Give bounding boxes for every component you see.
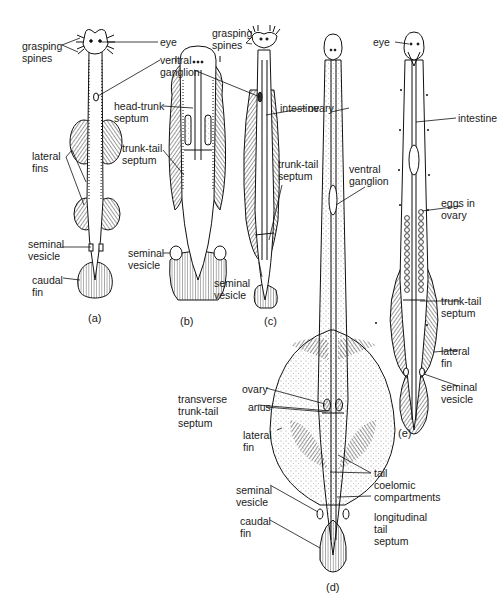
label-d-caudal-fin: caudal fin <box>240 515 271 539</box>
caption-a: (a) <box>88 312 101 324</box>
label-d-transverse-trunk-tail-septum: transverse trunk-tail septum <box>178 393 227 429</box>
label-e-seminal-vesicle: seminal vesicle <box>441 381 477 405</box>
caption-d: (d) <box>326 581 339 593</box>
panel-b-drawing <box>169 46 226 300</box>
label-c-seminal-vesicle: seminal vesicle <box>214 277 250 301</box>
label-e-lateral-fin: lateral fin <box>441 345 470 369</box>
label-d-longitudinal-tail-septum: longitudinal tail septum <box>374 511 427 547</box>
label-d-lateral-fin: lateral fin <box>243 429 272 453</box>
label-a-ventral-ganglion: ventral ganglion <box>160 54 200 78</box>
label-b-trunk-tail-septum: trunk-tail septum <box>122 142 162 166</box>
label-c-grasping-spines: grasping spines <box>212 27 252 51</box>
label-d-ovary: ovary <box>242 383 268 395</box>
label-e-trunk-tail-septum: trunk-tail septum <box>441 295 481 319</box>
label-a-caudal-fin: caudal fin <box>32 274 63 298</box>
label-d-ventral-ganglion: ventral ganglion <box>349 163 389 187</box>
label-d-anus: anus <box>248 401 271 413</box>
panel-c-drawing <box>244 25 280 308</box>
panel-e-drawing <box>375 32 438 434</box>
label-a-lateral-fins: lateral fins <box>32 150 61 174</box>
label-e-eye: eye <box>373 36 390 48</box>
label-a-grasping-spines: grasping spines <box>22 40 62 64</box>
label-d-seminal-vesicle: seminal vesicle <box>236 484 272 508</box>
label-b-seminal-vesicle: seminal vesicle <box>128 247 164 271</box>
label-e-eggs-in-ovary: eggs in ovary <box>441 197 475 221</box>
caption-b: (b) <box>180 315 193 327</box>
caption-e: (e) <box>398 427 411 439</box>
label-e-intestine: intestine <box>458 112 497 124</box>
caption-c: (c) <box>264 315 277 327</box>
label-a-seminal-vesicle: seminal vesicle <box>28 238 64 262</box>
label-b-head-trunk-septum: head-trunk septum <box>114 100 164 124</box>
label-d-tail-coelomic-compartments: tail coelomic compartments <box>374 467 441 503</box>
label-c-trunk-tail-septum: trunk-tail septum <box>278 158 318 182</box>
label-a-eye: eye <box>160 36 177 48</box>
label-c-intestine-text: intestine <box>280 102 319 114</box>
